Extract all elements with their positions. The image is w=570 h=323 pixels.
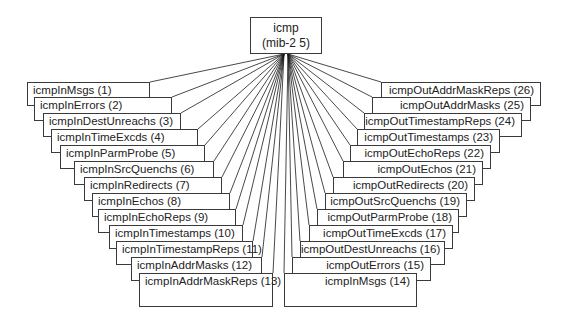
node-label: icmpOutTimeExcds (17) <box>323 227 446 239</box>
node-label: icmpInAddrMasks (12) <box>137 259 252 271</box>
node-label: icmpOutEchoReps (22) <box>364 147 484 159</box>
node-label: icmpOutTimestamps (23) <box>364 131 493 143</box>
connector-line <box>222 54 284 177</box>
node-label: icmpInEchos (8) <box>98 195 181 207</box>
node-label: icmpOutParmProbe (18) <box>327 211 452 223</box>
node-label: icmpOutDestUnreachs (16) <box>301 243 440 255</box>
node-label: icmpInParmProbe (5) <box>66 147 175 159</box>
connector-line <box>172 54 284 97</box>
node-label: icmpInMsgs (14) <box>325 275 410 287</box>
icmp-mib-tree-diagram: icmp (mib-2 5) icmpInMsgs (1) icmpInErro… <box>0 0 570 323</box>
connector-line <box>150 54 284 82</box>
node-label: icmpOutAddrMaskReps (26) <box>389 84 534 96</box>
connector-line <box>288 54 325 193</box>
connector-line <box>288 54 317 209</box>
node-label: icmpOutEchos (21) <box>378 163 476 175</box>
root-node-icmp: icmp (mib-2 5) <box>250 17 322 54</box>
node-label: icmpInSrcQuenchs (6) <box>80 163 194 175</box>
connector-line <box>198 54 284 129</box>
root-node-oid: (mib-2 5) <box>251 36 321 51</box>
connector-line <box>262 54 284 257</box>
node-label: icmpInDestUnreachs (3) <box>49 115 173 127</box>
node-label: icmpInMsgs (1) <box>33 84 112 96</box>
node-icmpInMsgs-14: icmpInMsgs (14) <box>284 273 417 307</box>
node-label: icmpInRedirects (7) <box>90 179 190 191</box>
connector-line <box>243 54 284 225</box>
node-label: icmpOutAddrMasks (25) <box>400 99 524 111</box>
node-label: icmpOutTimestampReps (24) <box>365 115 515 127</box>
node-label: icmpOutRedirects (20) <box>353 179 468 191</box>
connector-line <box>288 54 364 113</box>
node-label: icmpOutErrors (15) <box>326 259 424 271</box>
root-node-name: icmp <box>251 21 321 36</box>
node-label: icmpInAddrMaskReps (13) <box>145 275 281 287</box>
node-label: icmpOutSrcQuenchs (19) <box>330 195 460 207</box>
node-label: icmpInTimestampReps (11) <box>122 243 262 255</box>
node-icmpInAddrMaskReps: icmpInAddrMaskReps (13) <box>139 273 273 307</box>
node-label: icmpInTimestamps (10) <box>115 227 235 239</box>
connector-line <box>288 54 343 161</box>
node-label: icmpInEchoReps (9) <box>104 211 208 223</box>
node-label: icmpInErrors (2) <box>40 99 122 111</box>
connector-line <box>284 54 288 273</box>
node-label: icmpInTimeExcds (4) <box>57 131 165 143</box>
